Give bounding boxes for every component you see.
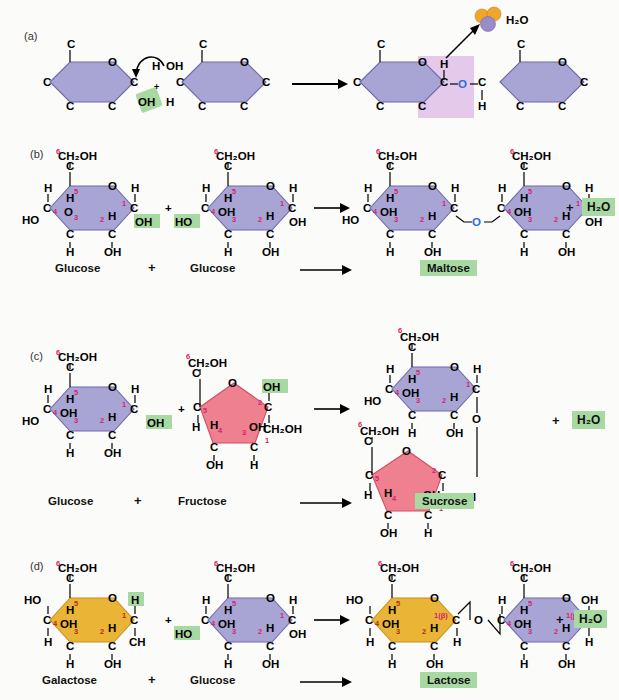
atom-c: C xyxy=(562,640,570,652)
carbon-number-2: 2 xyxy=(422,627,426,636)
carbon-number-3: 3 xyxy=(242,428,246,437)
atom-h: H xyxy=(289,594,297,606)
plus-sign: + xyxy=(165,202,172,214)
atom-h: H xyxy=(44,182,52,194)
atom-o: O xyxy=(418,56,427,68)
atom-o: O xyxy=(64,206,73,218)
atom-c: C xyxy=(517,38,525,50)
atom-oh: OH xyxy=(104,447,121,459)
carbon-number-2: 2 xyxy=(258,215,262,224)
atom-h: H xyxy=(266,622,274,634)
carbon-number-2: 2 xyxy=(258,398,262,407)
atom-o-ring: O xyxy=(266,180,275,192)
atom-h: H xyxy=(131,182,139,194)
atom-c-anomeric: C xyxy=(130,76,138,88)
atom-h: H xyxy=(66,658,74,670)
ring-reactant-2 xyxy=(182,62,266,102)
atom-h: H xyxy=(66,246,74,258)
carbon-number-5: 5 xyxy=(528,187,532,196)
atom-c: C xyxy=(424,509,432,521)
reaction-arrow-head-b xyxy=(340,203,350,213)
atom-o-ring: O xyxy=(266,592,275,604)
byproduct-plus: + xyxy=(552,413,560,428)
atom-ch: CH xyxy=(129,636,146,648)
atom-c: C xyxy=(558,100,566,112)
atom-h: H xyxy=(386,363,394,375)
atom-ho: HO xyxy=(22,415,39,427)
atom-h: H xyxy=(289,182,297,194)
atom-c: C xyxy=(520,228,528,240)
carbon-number-5: 5 xyxy=(232,187,236,196)
reactant-name-glucose: Glucose xyxy=(48,495,93,507)
atom-oh: OH xyxy=(289,216,306,228)
plus-sign-names: + xyxy=(148,260,156,275)
atom-ch2oh: CH₂OH xyxy=(512,562,551,574)
atom-c: C xyxy=(386,228,394,240)
reactant-name-glucose: Glucose xyxy=(190,262,235,274)
reaction-arrow-head-c xyxy=(340,404,350,414)
glycosidic-bond-right xyxy=(484,216,500,222)
atom-c: C xyxy=(240,100,248,112)
atom-c: C xyxy=(497,202,505,214)
atom-h: H xyxy=(202,594,210,606)
carbon-number-2: 2 xyxy=(432,466,436,475)
fructose-reactant: C CH₂OH 6 C 5 H O C 4 H OH C 3 OH H C 2 … xyxy=(186,352,302,471)
atom-h: H xyxy=(478,100,486,112)
glucose-reactant-2: HO C CH₂OH 6 5 H O C 4 H OH 3 C H H 2 C … xyxy=(174,147,306,258)
reaction-arrow-head-d xyxy=(340,615,350,625)
atom-c: C xyxy=(497,614,505,626)
atom-h: H xyxy=(66,192,74,204)
carbon-number-2: 2 xyxy=(258,627,262,636)
ring-glucose xyxy=(50,186,134,230)
atom-h: H xyxy=(44,636,52,648)
carbon-number-5: 5 xyxy=(74,599,78,608)
atom-h: H xyxy=(498,594,506,606)
atom-c: C xyxy=(262,76,270,88)
atom-c: C xyxy=(201,202,209,214)
carbon-number-6: 6 xyxy=(56,559,60,568)
product-name-lactose: Lactose xyxy=(420,672,477,688)
atom-ho: HO xyxy=(22,214,39,226)
atom-h: H xyxy=(386,192,394,204)
atom-h: H xyxy=(364,182,372,194)
product-name-sucrose: Sucrose xyxy=(415,493,474,509)
carbon-number-6: 6 xyxy=(56,147,60,156)
water-label: H₂O xyxy=(506,14,528,26)
glycosidic-oxygen: O xyxy=(474,614,483,626)
reactant-name-galactose: Galactose xyxy=(42,674,97,686)
carbon-number-3: 3 xyxy=(74,627,78,636)
atom-h: H xyxy=(498,182,506,194)
atom-c-anomeric: C xyxy=(438,469,446,481)
atom-c: C xyxy=(520,640,528,652)
atom-c: C xyxy=(193,401,201,413)
glycosidic-bond-left xyxy=(456,216,472,222)
atom-c-anomeric: C xyxy=(130,403,138,415)
atom-c: C xyxy=(43,614,51,626)
carbon-number-5: 5 xyxy=(416,368,420,377)
atom-o-ring: O xyxy=(450,361,459,373)
carbon-number-3: 3 xyxy=(74,213,78,222)
atom-oh: OH xyxy=(558,246,575,258)
panel-d-diagram: C CH₂OH 6 5 H O C 4 HO H OH 3 C H H 2 C … xyxy=(22,558,602,668)
atom-c: C xyxy=(353,76,361,88)
atom-o: O xyxy=(240,56,249,68)
carbon-number-3: 3 xyxy=(528,627,532,636)
carbon-number-5: 5 xyxy=(74,187,78,196)
carbon-number-6: 6 xyxy=(378,559,382,568)
carbon-number-5: 5 xyxy=(203,406,207,415)
carbon-number-5: 5 xyxy=(394,187,398,196)
atom-ch2oh: CH₂OH xyxy=(58,351,97,363)
atom-ho-reactive: HO xyxy=(175,628,192,640)
glucose-reactant-1: C CH₂OH 6 5 H O C 4 H HO C 3 O H C 2 H O… xyxy=(22,147,160,258)
carbon-number-3: 3 xyxy=(232,627,236,636)
atom-o-ring: O xyxy=(562,592,571,604)
atom-h: H xyxy=(520,192,528,204)
atom-oh: OH xyxy=(581,594,598,606)
atom-c: C xyxy=(388,640,396,652)
atom-c: C xyxy=(430,640,438,652)
atom-c: C xyxy=(201,614,209,626)
atom-oh-reactive: OH xyxy=(147,417,164,429)
atom-c-anomeric: C xyxy=(472,383,480,395)
atom-c: C xyxy=(108,100,116,112)
atom-h: H xyxy=(131,383,139,395)
